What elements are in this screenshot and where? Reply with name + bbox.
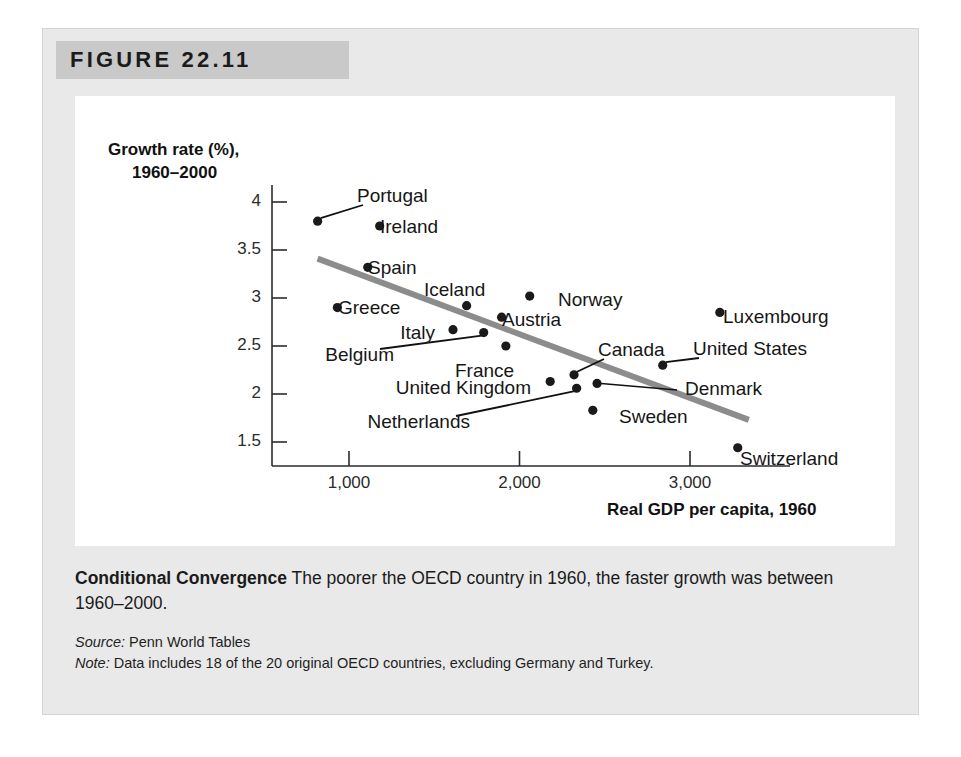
data-point-label: Portugal	[357, 185, 428, 207]
data-point-label: Italy	[0, 322, 435, 344]
figure-number-label: FIGURE 22.11	[56, 47, 251, 73]
data-point-label: Belgium	[0, 344, 394, 366]
y-axis-title-line2: 1960–2000	[132, 163, 217, 183]
figure-number-banner: FIGURE 22.11	[56, 41, 349, 79]
data-point-label: United States	[693, 338, 807, 360]
data-point-label: Switzerland	[740, 448, 838, 470]
y-tick-label: 1.5	[215, 431, 261, 451]
data-point-label: Sweden	[619, 406, 688, 428]
y-tick-label: 3	[215, 287, 261, 307]
data-point-label: Austria	[502, 309, 561, 331]
data-point-label: Denmark	[685, 378, 762, 400]
caption-note-line: Note: Data includes 18 of the 20 origina…	[75, 653, 875, 674]
data-point-label: Norway	[558, 289, 622, 311]
x-tick-label: 2,000	[480, 473, 560, 493]
data-point-label: United Kingdom	[0, 377, 531, 399]
note-text: Data includes 18 of the 20 original OECD…	[110, 655, 654, 671]
data-point-label: Netherlands	[0, 411, 470, 433]
data-point-label: Greece	[338, 297, 400, 319]
x-tick-label: 1,000	[309, 473, 389, 493]
source-text: Penn World Tables	[125, 634, 250, 650]
data-point-label: Spain	[368, 257, 417, 279]
source-label: Source:	[75, 634, 125, 650]
x-tick-label: 3,000	[650, 473, 730, 493]
y-axis-title-line1: Growth rate (%),	[108, 140, 239, 160]
figure-caption: Conditional Convergence The poorer the O…	[75, 566, 875, 674]
y-tick-label: 3.5	[215, 239, 261, 259]
page-background: FIGURE 22.11 Growth rate (%), 1960–2000 …	[0, 0, 961, 757]
data-point-label: Ireland	[380, 216, 438, 238]
caption-meta: Source: Penn World Tables Note: Data inc…	[75, 632, 875, 674]
caption-source-line: Source: Penn World Tables	[75, 632, 875, 653]
x-axis-title: Real GDP per capita, 1960	[607, 500, 816, 520]
y-tick-label: 4	[215, 191, 261, 211]
note-label: Note:	[75, 655, 110, 671]
data-point-label: Iceland	[424, 279, 485, 301]
data-point-label: Canada	[598, 339, 665, 361]
caption-headline: Conditional Convergence The poorer the O…	[75, 566, 875, 616]
caption-title: Conditional Convergence	[75, 568, 287, 588]
data-point-label: Luxembourg	[723, 306, 829, 328]
